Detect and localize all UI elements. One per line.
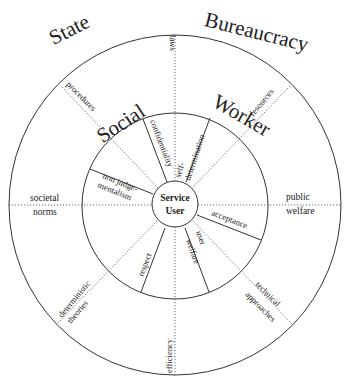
label-bureaucracy: Bureaucracy xyxy=(202,7,311,56)
item-laws: laws xyxy=(168,35,178,51)
center-circle xyxy=(152,181,198,227)
label-state: State xyxy=(45,9,93,49)
item-efficiency: efficiency xyxy=(164,338,174,373)
item-societal: societal xyxy=(30,193,59,203)
values-diagram: State Bureaucracy Social Worker laws res… xyxy=(0,0,351,377)
item-procedures: procedures xyxy=(65,79,99,113)
center-label-service: Service xyxy=(160,193,190,203)
label-social: Social xyxy=(92,99,149,148)
spoke-lower-right xyxy=(192,220,292,324)
item-norms: norms xyxy=(33,207,57,217)
item-determination: determination xyxy=(182,132,206,181)
svg-text:Bureaucracy: Bureaucracy xyxy=(202,7,311,56)
item-welfare: welfare xyxy=(286,206,314,216)
item-public: public xyxy=(286,192,310,202)
item-acceptance: acceptance xyxy=(210,208,249,231)
center-label-user: User xyxy=(166,206,186,216)
